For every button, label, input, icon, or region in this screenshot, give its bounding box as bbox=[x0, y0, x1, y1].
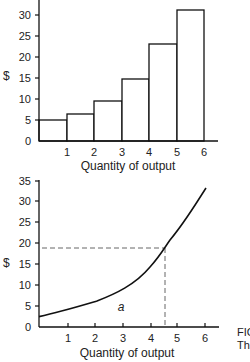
figure-caption-line1: FIG bbox=[237, 326, 250, 338]
bar-4 bbox=[122, 79, 149, 141]
top-y-tick-0: 0 bbox=[25, 135, 31, 147]
bottom-y-tick-35: 35 bbox=[19, 175, 31, 187]
area-label-a: a bbox=[118, 300, 125, 314]
bars bbox=[39, 10, 204, 141]
figure-caption-line2: Th bbox=[237, 339, 250, 351]
top-y-tick-25: 25 bbox=[19, 30, 31, 42]
top-x-tick-4: 4 bbox=[146, 146, 152, 158]
bottom-y-tick-0: 0 bbox=[25, 321, 31, 333]
bottom-x-tick-4: 4 bbox=[148, 332, 154, 344]
top-x-tick-5: 5 bbox=[174, 146, 180, 158]
bottom-y-tick-25: 25 bbox=[19, 216, 31, 228]
bottom-y-tick-20: 20 bbox=[19, 237, 31, 249]
top-y-tick-10: 10 bbox=[19, 93, 31, 105]
top-x-tick-3: 3 bbox=[119, 146, 125, 158]
cost-curve bbox=[39, 188, 206, 317]
top-x-axis-label: Quantity of output bbox=[81, 159, 176, 173]
bar-5 bbox=[149, 44, 177, 141]
bottom-x-tick-3: 3 bbox=[120, 332, 126, 344]
bottom-x-tick-1: 1 bbox=[65, 332, 71, 344]
bottom-y-tick-10: 10 bbox=[19, 279, 31, 291]
top-x-tick-6: 6 bbox=[201, 146, 207, 158]
bar-2 bbox=[67, 114, 94, 141]
bar-3 bbox=[94, 101, 122, 141]
bottom-x-axis-label: Quantity of output bbox=[80, 346, 175, 360]
bottom-y-tick-5: 5 bbox=[25, 300, 31, 312]
bottom-y-tick-30: 30 bbox=[19, 195, 31, 207]
top-y-tick-5: 5 bbox=[25, 114, 31, 126]
bar-6 bbox=[177, 10, 204, 141]
bottom-y-tick-15: 15 bbox=[19, 258, 31, 270]
top-bar-chart: 0 5 10 15 20 25 30 1 2 3 4 5 6 Quantity … bbox=[3, 0, 218, 173]
bottom-x-tick-6: 6 bbox=[202, 332, 208, 344]
bar-1 bbox=[39, 120, 67, 141]
top-x-tick-1: 1 bbox=[64, 146, 70, 158]
bottom-x-tick-2: 2 bbox=[92, 332, 98, 344]
top-x-tick-2: 2 bbox=[91, 146, 97, 158]
top-y-tick-20: 20 bbox=[19, 51, 31, 63]
bottom-line-chart: 0 5 10 15 20 25 30 35 1 2 3 4 5 6 Quanti… bbox=[3, 175, 219, 360]
bottom-y-axis-label: $ bbox=[3, 256, 10, 270]
top-y-tick-30: 30 bbox=[19, 9, 31, 21]
top-y-axis-label: $ bbox=[3, 69, 10, 83]
top-y-tick-15: 15 bbox=[19, 72, 31, 84]
bottom-x-tick-5: 5 bbox=[174, 332, 180, 344]
figure-canvas: 0 5 10 15 20 25 30 1 2 3 4 5 6 Quantity … bbox=[0, 0, 250, 362]
